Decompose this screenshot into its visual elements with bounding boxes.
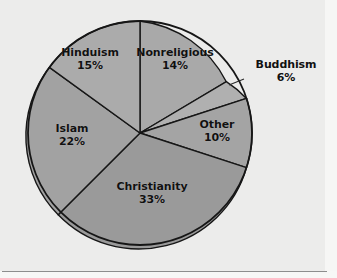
slice-label-other-pct: 10% (186, 131, 248, 144)
slice-label-christianity-name: Christianity (117, 180, 188, 193)
page-horizontal-rule (2, 271, 327, 272)
slice-label-christianity-pct: 33% (104, 193, 200, 206)
slice-label-islam: Islam 22% (41, 122, 103, 148)
page-margin-right (325, 0, 337, 278)
slice-label-islam-pct: 22% (41, 135, 103, 148)
page: Hinduism 15% Nonreligious 14% Buddhism 6… (0, 0, 337, 278)
slice-label-other: Other 10% (186, 118, 248, 144)
slice-label-buddhism-pct: 6% (246, 71, 326, 84)
slice-label-christianity: Christianity 33% (104, 180, 200, 206)
slice-label-hinduism: Hinduism 15% (52, 46, 128, 72)
slice-label-hinduism-name: Hinduism (61, 46, 119, 59)
slice-label-buddhism-name: Buddhism (256, 58, 317, 71)
slice-label-nonreligious: Nonreligious 14% (132, 46, 218, 72)
page-margin-bottom (0, 271, 337, 278)
slice-label-nonreligious-pct: 14% (132, 59, 218, 72)
slice-label-buddhism: Buddhism 6% (246, 58, 326, 84)
pie-chart: Hinduism 15% Nonreligious 14% Buddhism 6… (0, 0, 337, 272)
slice-label-islam-name: Islam (56, 122, 89, 135)
slice-label-hinduism-pct: 15% (52, 59, 128, 72)
slice-label-nonreligious-name: Nonreligious (136, 46, 213, 59)
slice-label-other-name: Other (200, 118, 235, 131)
